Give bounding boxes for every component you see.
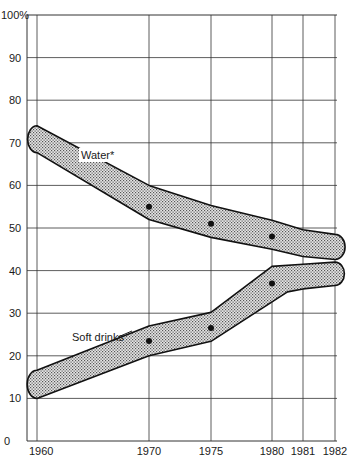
x-tick-label: 1975 — [199, 445, 223, 457]
y-tick-label: 50 — [9, 222, 21, 234]
soft-drinks-data-point — [208, 325, 214, 331]
y-tick-label: 70 — [9, 137, 21, 149]
y-tick-label: 10 — [9, 392, 21, 404]
y-tick-label: 40 — [9, 265, 21, 277]
water-data-point — [146, 204, 152, 210]
x-tick-label: 1982 — [323, 445, 347, 457]
y-tick-label: 20 — [9, 350, 21, 362]
y-tick-label: 100% — [1, 9, 29, 21]
water-band — [28, 126, 345, 260]
soft-drinks-label: Soft drinks — [72, 331, 124, 343]
y-tick-label: 0 — [4, 435, 10, 447]
line-band-chart: 0102030405060708090100%19601970197519801… — [0, 0, 359, 461]
x-tick-label: 1970 — [137, 445, 161, 457]
x-tick-label: 1981 — [291, 445, 315, 457]
x-tick-label: 1960 — [29, 445, 53, 457]
x-tick-label: 1980 — [260, 445, 284, 457]
y-tick-label: 60 — [9, 179, 21, 191]
water-label: Water* — [81, 149, 115, 161]
y-tick-label: 90 — [9, 52, 21, 64]
soft-drinks-data-point — [269, 280, 275, 286]
y-tick-label: 30 — [9, 307, 21, 319]
water-data-point — [269, 234, 275, 240]
soft-drinks-data-point — [146, 338, 152, 344]
data-bands — [27, 126, 345, 399]
chart-container: 0102030405060708090100%19601970197519801… — [0, 0, 359, 461]
y-tick-label: 80 — [9, 94, 21, 106]
water-data-point — [208, 221, 214, 227]
